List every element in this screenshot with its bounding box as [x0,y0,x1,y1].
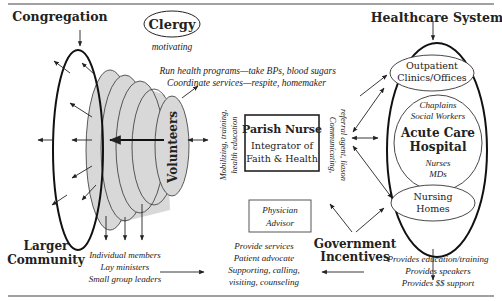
parish-nurse-diagram: Clergy motivating Congregation Healthcar… [0,0,502,301]
provides-line1: Provides education/training [387,254,489,264]
hospital-line1: Acute Care [400,126,475,140]
provides-list: Provides education/training Provides spe… [387,254,489,288]
social-workers: Social Workers [411,111,466,121]
parish-nurse-title: Parish Nurse [242,123,322,136]
clergy-action: motivating [152,42,193,52]
services-list: Provide services Patient advocate Suppor… [228,241,300,287]
physician-advisor-line2: Advisor [265,218,294,228]
outpatient-line1: Outpatient [406,60,458,71]
mobilizing-label-1: Mobilizing, training, [218,110,228,182]
services-line3: Supporting, calling, [228,265,300,275]
communicating-label-1: Communicating, [328,117,338,173]
provides-line2: Provides speakers [404,266,471,276]
services-line4: visiting, counseling [229,277,299,287]
physician-advisor-line1: Physician [261,205,298,215]
congregation-title: Congregation [12,9,107,24]
nursing-line2: Homes [416,203,450,214]
larger-community-line2: Community [7,253,86,267]
communicating-label-2: referral agent, liason [339,109,349,181]
government-line1: Government [314,237,397,251]
healthcare-title: Healthcare System [371,10,502,25]
parish-nurse-sub1: Integrator of [251,140,314,151]
chaplains: Chaplains [419,100,457,110]
provides-line3: Provides $$ support [401,278,475,288]
clergy-label: Clergy [148,17,195,32]
parish-nurse-sub2: Faith & Health [246,153,318,164]
members-line3: Small group leaders [89,274,162,284]
mds: MDs [428,169,447,179]
health-programs-line2: Coordinate services—respite, homemaker [167,78,326,88]
nurses: Nurses [424,158,451,168]
services-line2: Patient advocate [233,253,295,263]
government-line2: Incentives [320,250,390,264]
larger-community-line1: Larger [24,239,70,253]
mobilizing-label-2: health education [229,117,239,174]
outpatient-line2: Clinics/Offices [397,72,466,83]
members-line2: Lay ministers [100,262,150,272]
volunteers-label: Volunteers [166,111,180,184]
health-programs-line1: Run health programs—take BPs, blood suga… [159,66,337,76]
members-list: Individual members Lay ministers Small g… [88,250,162,284]
services-line1: Provide services [233,241,294,251]
members-line1: Individual members [88,250,161,260]
hospital-line2: Hospital [410,140,467,154]
nursing-line1: Nursing [413,191,452,202]
